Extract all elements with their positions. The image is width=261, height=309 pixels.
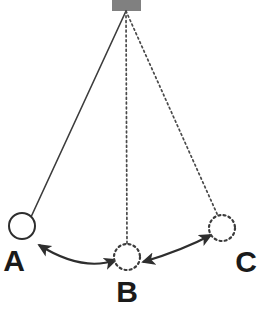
swing-arrow-b-c [143,235,211,262]
pendulum-diagram: A B C [0,0,261,309]
bob-label-c: C [235,245,257,278]
pendulum-string-c [126,11,218,216]
pendulum-string-a [31,11,126,217]
pendulum-bob-a [9,213,35,239]
bob-label-a: A [3,244,25,277]
pendulum-illustration: A B C [0,0,261,309]
swing-arrow-a-b [39,245,116,264]
pendulum-bob-b [114,244,140,270]
pendulum-bob-c [209,215,235,241]
bob-label-b: B [116,275,138,308]
ceiling-mount [112,0,141,11]
pendulum-string-b [126,11,127,244]
